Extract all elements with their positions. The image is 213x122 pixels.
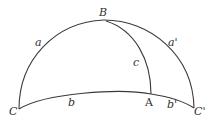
side-label-c: c	[133, 56, 139, 69]
vertex-label-A: A	[144, 96, 154, 109]
spherical-triangle-diagram: B C C' A a a' c b b'	[0, 0, 213, 122]
vertex-label-B: B	[98, 6, 107, 19]
side-label-b: b	[68, 96, 75, 109]
vertex-label-C: C	[9, 105, 18, 118]
side-label-b-prime: b'	[167, 98, 177, 111]
side-label-a: a	[35, 36, 42, 49]
side-label-a-prime: a'	[168, 36, 178, 49]
vertex-label-C-prime: C'	[194, 105, 205, 118]
arc-c	[106, 21, 151, 94]
arc-a-prime	[104, 20, 194, 108]
